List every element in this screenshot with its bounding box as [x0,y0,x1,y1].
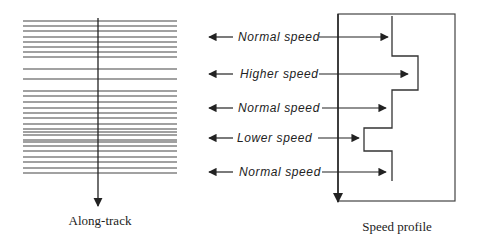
speed-profile-caption: Speed profile [362,219,432,234]
speed-labels: Normal speedHigher speedNormal speedLowe… [209,30,408,179]
speed-profile-line [364,16,418,181]
speed-label-text: Normal speed [238,101,320,115]
along-track-caption: Along-track [69,213,132,228]
diagram-canvas: Along-track Normal speedHigher speedNorm… [0,0,477,241]
speed-label-text: Normal speed [239,165,321,179]
speed-label-text: Normal speed [238,30,320,44]
speed-label-text: Lower speed [237,131,312,145]
speed-label-2: Normal speed [209,101,386,115]
speed-label-text: Higher speed [240,67,319,81]
speed-profile-panel: Normal speedHigher speedNormal speedLowe… [209,14,455,234]
speed-label-0: Normal speed [209,30,388,44]
track-lines [23,21,177,173]
speed-label-1: Higher speed [209,67,408,81]
speed-label-3: Lower speed [209,131,359,145]
speed-label-4: Normal speed [209,165,386,179]
along-track-panel: Along-track [23,18,177,228]
